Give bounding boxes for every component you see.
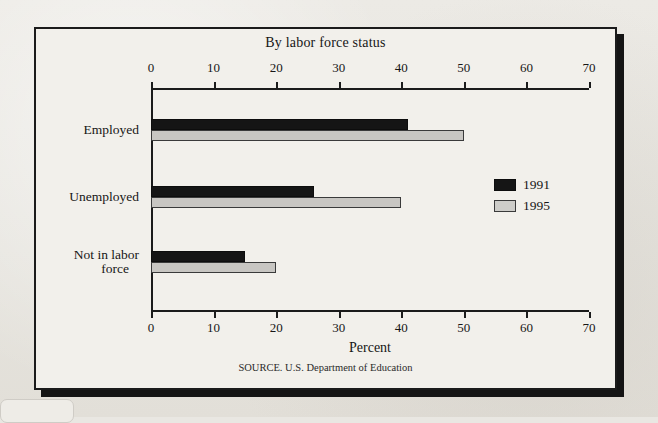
source-note: SOURCE. U.S. Department of Education <box>36 362 615 373</box>
x-tick-top <box>401 82 403 88</box>
x-tick-bottom <box>214 312 216 318</box>
x-tick-top <box>339 82 341 88</box>
legend-label-1995: 1995 <box>523 198 550 214</box>
legend-swatch-1991-icon <box>494 179 516 191</box>
x-tick-label-top: 50 <box>457 60 470 76</box>
x-tick-label-bottom: 0 <box>148 320 155 336</box>
x-tick-top <box>276 82 278 88</box>
x-tick-top <box>214 82 216 88</box>
bar-1995-2 <box>151 197 401 208</box>
legend-swatch-1995-icon <box>494 200 516 212</box>
x-tick-top <box>526 82 528 88</box>
x-tick-label-top: 40 <box>395 60 408 76</box>
category-label-line1: Unemployed <box>69 189 139 204</box>
x-tick-top <box>589 82 591 88</box>
x-tick-label-bottom: 70 <box>583 320 596 336</box>
bar-1991-3 <box>151 251 245 262</box>
category-label: Not in laborforce <box>31 248 139 276</box>
x-tick-top <box>464 82 466 88</box>
bar-1991-2 <box>151 186 314 197</box>
legend-item-1995: 1995 <box>494 198 550 214</box>
x-tick-bottom <box>151 312 153 318</box>
legend-label-1991: 1991 <box>523 177 550 193</box>
x-tick-label-bottom: 40 <box>395 320 408 336</box>
category-label-line1: Employed <box>84 122 140 137</box>
x-tick-label-top: 20 <box>270 60 283 76</box>
x-tick-label-top: 0 <box>148 60 155 76</box>
figure-panel: By labor force status 010203040506070 01… <box>34 27 617 390</box>
x-tick-bottom <box>589 312 591 318</box>
x-tick-label-bottom: 10 <box>207 320 220 336</box>
category-label-line1: Not in labor <box>74 247 139 262</box>
x-tick-label-bottom: 60 <box>520 320 533 336</box>
x-tick-top <box>151 82 153 88</box>
legend: 1991 1995 <box>494 177 550 219</box>
figure-drop-shadow-right <box>617 34 624 397</box>
x-axis-label: Percent <box>151 340 589 356</box>
legend-item-1991: 1991 <box>494 177 550 193</box>
x-tick-label-top: 30 <box>332 60 345 76</box>
x-tick-bottom <box>339 312 341 318</box>
page-corner-artifact <box>0 399 74 423</box>
chart-title: By labor force status <box>36 35 615 51</box>
x-tick-bottom <box>276 312 278 318</box>
x-tick-bottom <box>526 312 528 318</box>
x-tick-label-bottom: 50 <box>457 320 470 336</box>
category-label: Employed <box>31 123 139 137</box>
category-label: Unemployed <box>31 190 139 204</box>
x-tick-label-bottom: 20 <box>270 320 283 336</box>
figure-drop-shadow-bottom <box>41 390 624 397</box>
x-tick-label-bottom: 30 <box>332 320 345 336</box>
x-tick-bottom <box>464 312 466 318</box>
bar-1995-3 <box>151 262 276 273</box>
x-tick-label-top: 60 <box>520 60 533 76</box>
x-tick-bottom <box>401 312 403 318</box>
category-label-line2: force <box>31 262 139 276</box>
bar-1991-1 <box>151 119 408 130</box>
bar-1995-1 <box>151 130 464 141</box>
x-tick-label-top: 70 <box>583 60 596 76</box>
x-tick-label-top: 10 <box>207 60 220 76</box>
